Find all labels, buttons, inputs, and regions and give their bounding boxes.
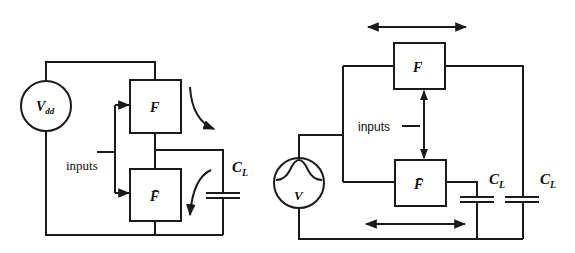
right-gate-fbar-label: F̄	[413, 177, 424, 192]
gate-f-top: F	[130, 80, 181, 133]
right-gate-f: F	[394, 43, 445, 89]
right-wires	[299, 66, 523, 239]
load-capacitor-2: CL	[505, 171, 556, 202]
inputs-bus: inputs	[66, 105, 129, 193]
gate-fbar-label: F̄	[149, 189, 160, 204]
circuit-figure: Vdd F F̄ inputs CL	[0, 0, 575, 253]
charge-current-arrow-icon	[190, 87, 214, 129]
ac-source-label: V	[294, 188, 304, 203]
right-inputs-label: inputs	[358, 120, 390, 134]
vdd-source: Vdd	[21, 81, 71, 131]
inputs-label: inputs	[66, 158, 98, 173]
left-circuit: Vdd F F̄ inputs CL	[21, 62, 248, 235]
right-circuit: F F̄ inputs V CL CL	[274, 27, 556, 239]
cl2-label: CL	[540, 171, 556, 190]
right-gate-f-label: F	[412, 60, 423, 75]
cl-label: CL	[232, 159, 248, 178]
gate-f-label: F	[149, 100, 160, 115]
cl1-label: CL	[489, 171, 505, 190]
ac-source: V	[274, 158, 324, 208]
load-capacitor-1: CL	[460, 171, 505, 202]
right-gate-fbar: F̄	[395, 160, 446, 206]
gate-fbar-bottom: F̄	[130, 169, 181, 221]
load-capacitor: CL	[206, 159, 248, 198]
